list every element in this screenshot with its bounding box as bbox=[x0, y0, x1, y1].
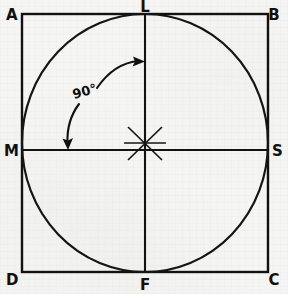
vertex-label-a: A bbox=[6, 6, 18, 24]
vertex-label-d: D bbox=[6, 271, 18, 289]
midpoint-label-m: M bbox=[4, 142, 19, 160]
angle-arc-annotation bbox=[63, 57, 146, 151]
midpoint-label-f: F bbox=[140, 276, 150, 294]
midpoint-label-s: S bbox=[272, 142, 283, 160]
midpoint-label-l: L bbox=[140, 0, 150, 16]
angle-label-90: 90° bbox=[71, 81, 99, 102]
vertex-label-c: C bbox=[268, 271, 279, 289]
vertex-label-b: B bbox=[268, 6, 279, 24]
geometry-figure: 90° A B C D L M S F bbox=[0, 0, 288, 294]
diagram-page: 90° A B C D L M S F bbox=[0, 0, 288, 294]
center-star-mark bbox=[124, 124, 166, 163]
